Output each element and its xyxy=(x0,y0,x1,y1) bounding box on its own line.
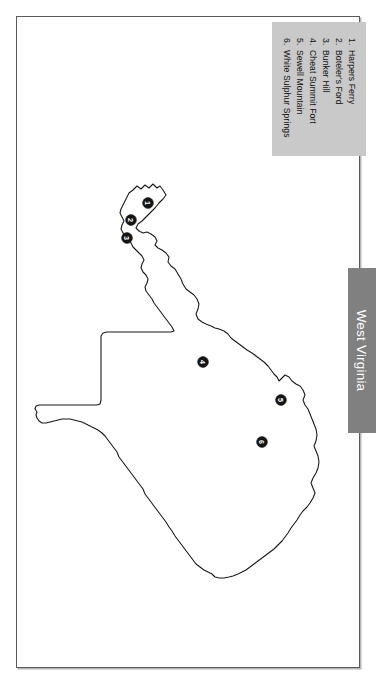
legend-item-label: Bunker Hill xyxy=(319,50,332,93)
legend-item-label: Sewell Mountain xyxy=(293,50,306,115)
legend-item-label: Harpers Ferry xyxy=(345,50,358,104)
legend-list: 1.Harpers Ferry2.Boteler's Ford3.Bunker … xyxy=(272,22,366,156)
legend-item[interactable]: 3.Bunker Hill xyxy=(319,38,332,156)
legend-item-label: Cheat Summit Fort xyxy=(306,50,319,124)
legend-item[interactable]: 4.Cheat Summit Fort xyxy=(306,38,319,156)
legend-item-number: 6. xyxy=(280,38,293,50)
legend-item-number: 3. xyxy=(319,38,332,50)
legend-item-number: 2. xyxy=(332,38,345,50)
legend-item[interactable]: 1.Harpers Ferry xyxy=(345,38,358,156)
legend-item-number: 4. xyxy=(306,38,319,50)
legend-item-label: White Sulphur Springs xyxy=(280,50,293,138)
legend-item[interactable]: 2.Boteler's Ford xyxy=(332,38,345,156)
legend-item[interactable]: 6.White Sulphur Springs xyxy=(280,38,293,156)
legend-panel: 1.Harpers Ferry2.Boteler's Ford3.Bunker … xyxy=(272,22,366,156)
legend-item[interactable]: 5.Sewell Mountain xyxy=(293,38,306,156)
region-tab-label: West Virginia xyxy=(348,268,376,433)
legend-item-label: Boteler's Ford xyxy=(332,50,345,105)
region-tab[interactable]: West Virginia xyxy=(348,268,376,433)
legend-item-number: 5. xyxy=(293,38,306,50)
legend-item-number: 1. xyxy=(345,38,358,50)
